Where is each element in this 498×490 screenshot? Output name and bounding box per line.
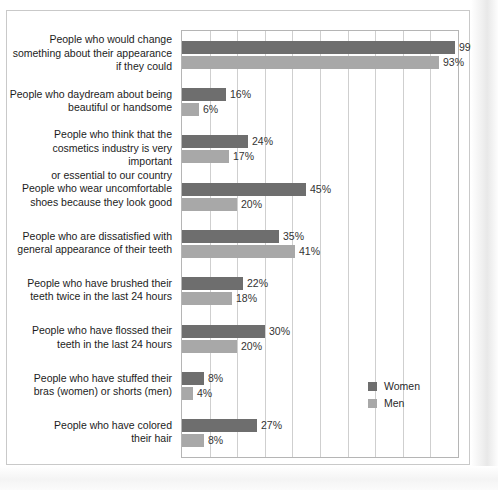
- legend-item-women: Women: [368, 379, 420, 394]
- category-label-column: People who would change something about …: [6, 30, 176, 458]
- bar-value-men-0: 93%: [443, 56, 464, 69]
- bar-value-women-7: 8%: [208, 372, 223, 385]
- plot-area: 99%93%16%6%24%17%45%20%35%41%22%18%30%20…: [181, 30, 459, 458]
- category-label-7: People who have stuffed their bras (wome…: [6, 372, 172, 399]
- legend-item-men: Men: [368, 396, 420, 411]
- bar-value-women-1: 16%: [230, 88, 251, 101]
- legend-swatch-men: [368, 399, 377, 408]
- bar-women-5: [182, 277, 243, 290]
- bar-row: 16%6%: [182, 78, 458, 125]
- bar-value-women-8: 27%: [261, 419, 282, 432]
- bar-row: 30%20%: [182, 315, 458, 362]
- bar-men-6: [182, 340, 237, 353]
- bar-value-women-3: 45%: [310, 183, 331, 196]
- legend-label-men: Men: [384, 398, 404, 409]
- bar-women-3: [182, 183, 306, 196]
- category-label-1: People who daydream about being beautifu…: [6, 88, 172, 115]
- bar-value-men-1: 6%: [203, 103, 218, 116]
- bar-row: 35%41%: [182, 220, 458, 267]
- bar-row: 99%93%: [182, 31, 458, 78]
- bar-value-men-7: 4%: [197, 387, 212, 400]
- bar-women-6: [182, 325, 265, 338]
- bar-row: 27%8%: [182, 410, 458, 457]
- bar-value-men-5: 18%: [236, 292, 257, 305]
- bar-row: 24%17%: [182, 126, 458, 173]
- category-label-5: People who have brushed their teeth twic…: [6, 277, 172, 304]
- bar-row: 45%20%: [182, 173, 458, 220]
- bar-value-women-2: 24%: [252, 135, 273, 148]
- bar-women-0: [182, 41, 455, 54]
- category-label-2: People who think that the cosmetics indu…: [6, 128, 172, 182]
- bar-men-7: [182, 387, 193, 400]
- bar-value-women-6: 30%: [269, 325, 290, 338]
- bar-row: 22%18%: [182, 268, 458, 315]
- bar-men-2: [182, 150, 229, 163]
- bar-men-0: [182, 56, 439, 69]
- grouped-bar-chart: People who would change something about …: [6, 10, 470, 465]
- bar-women-2: [182, 135, 248, 148]
- bar-women-7: [182, 372, 204, 385]
- bar-value-men-6: 20%: [241, 340, 262, 353]
- bar-value-men-2: 17%: [233, 150, 254, 163]
- bar-value-men-8: 8%: [208, 434, 223, 447]
- page-edge-right: [471, 0, 498, 490]
- bar-men-3: [182, 198, 237, 211]
- category-label-8: People who have colored their hair: [6, 419, 172, 446]
- bar-women-4: [182, 230, 279, 243]
- legend-label-women: Women: [384, 381, 420, 392]
- bar-men-8: [182, 434, 204, 447]
- bar-men-1: [182, 103, 199, 116]
- bar-men-5: [182, 292, 232, 305]
- bar-value-men-3: 20%: [241, 198, 262, 211]
- page-edge-bottom: [0, 466, 498, 490]
- legend: WomenMen: [368, 379, 420, 413]
- bar-women-8: [182, 419, 257, 432]
- category-label-3: People who wear uncomfortable shoes beca…: [6, 182, 172, 209]
- bar-value-men-4: 41%: [299, 245, 320, 258]
- bar-men-4: [182, 245, 295, 258]
- bar-value-women-5: 22%: [247, 277, 268, 290]
- category-label-0: People who would change something about …: [6, 33, 172, 74]
- bar-women-1: [182, 88, 226, 101]
- chart-page: People who would change something about …: [0, 0, 498, 490]
- category-label-6: People who have flossed their teeth in t…: [6, 324, 172, 351]
- bar-value-women-4: 35%: [283, 230, 304, 243]
- legend-swatch-women: [368, 382, 377, 391]
- category-label-4: People who are dissatisfied with general…: [6, 230, 172, 257]
